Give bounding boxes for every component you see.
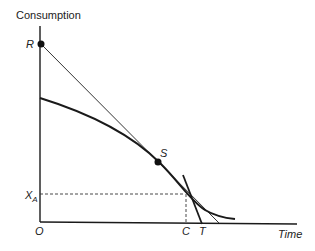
XA-label: XA [24, 189, 38, 204]
x-axis-label: Time [278, 228, 302, 240]
diagram: Consumption R S XA O C T Time [0, 0, 315, 251]
point-T-label: T [199, 225, 207, 237]
x-axis [40, 222, 297, 224]
budget-line-from-R [41, 44, 219, 223]
point-C-label: C [182, 225, 190, 237]
point-S-label: S [160, 147, 168, 159]
XA-sub: A [31, 195, 37, 204]
concave-curve [40, 98, 235, 219]
origin-label: O [35, 225, 44, 237]
point-S-marker [155, 159, 162, 166]
point-R-label: R [26, 38, 34, 50]
point-R-marker [38, 41, 45, 48]
y-axis-label: Consumption [16, 9, 81, 21]
